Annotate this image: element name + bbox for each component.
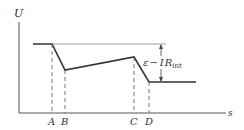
voltage-drop-label: ε−IRint	[143, 57, 182, 70]
y-axis-label: U	[14, 7, 24, 20]
emf-symbol: ε	[143, 57, 148, 68]
arrowhead-up-icon	[159, 44, 163, 49]
minus-sign: −	[149, 57, 157, 68]
x-axis-label: s	[228, 108, 233, 118]
point-label-A: A	[47, 116, 55, 127]
point-label-D: D	[144, 116, 153, 127]
resistance-subscript: int	[172, 62, 182, 70]
point-label-B: B	[60, 116, 68, 127]
point-label-C: C	[130, 116, 138, 127]
voltage-diagram: U s A B C D ε−IRint	[0, 0, 244, 130]
